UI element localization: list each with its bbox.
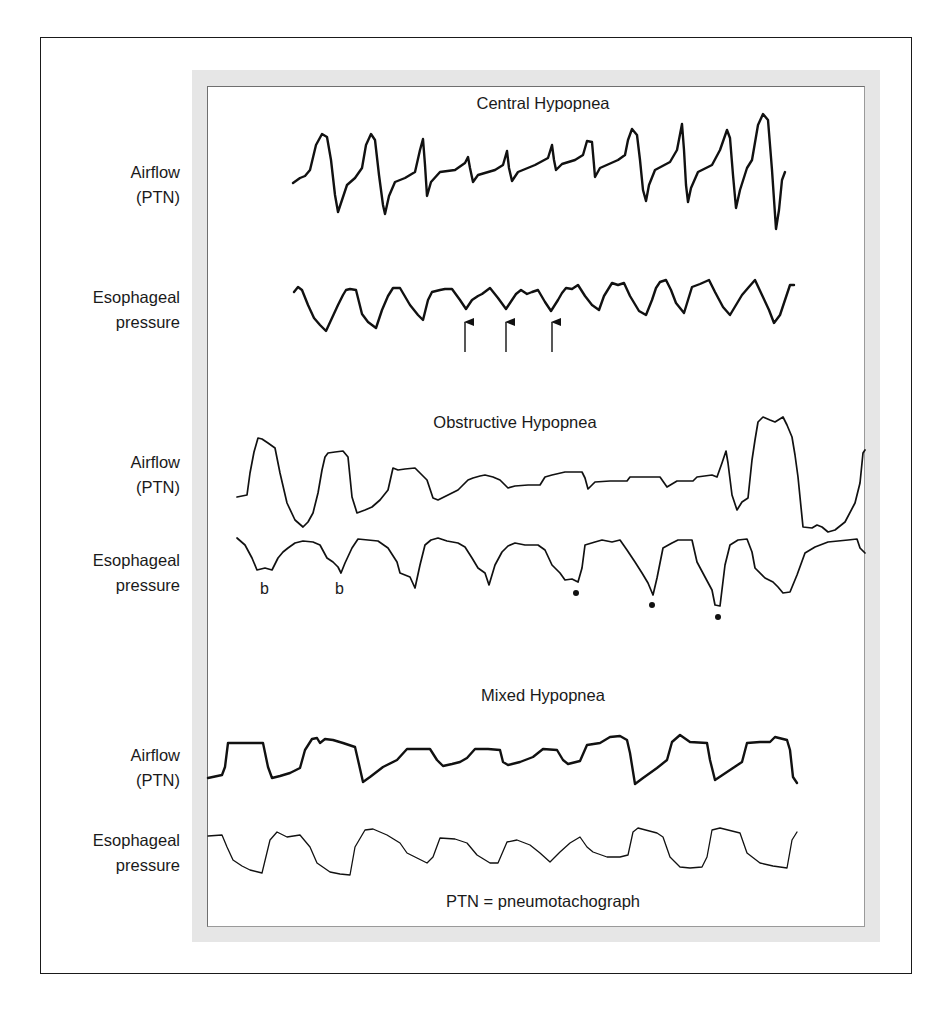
dot-marker xyxy=(573,590,579,596)
trace-central-pressure xyxy=(294,280,794,331)
trace-central-airflow xyxy=(293,114,785,229)
trace-mixed-pressure xyxy=(208,828,797,875)
dot-marker xyxy=(649,602,655,608)
waveform-traces xyxy=(0,0,941,1022)
trace-obstructive-airflow xyxy=(237,417,865,532)
annotation-layer xyxy=(465,322,721,620)
trace-mixed-airflow xyxy=(208,735,797,784)
dot-marker xyxy=(715,614,721,620)
trace-obstructive-pressure xyxy=(237,538,865,606)
